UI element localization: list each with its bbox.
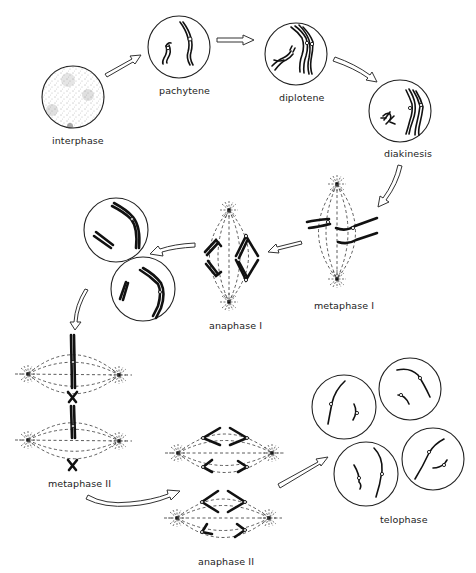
metaphase-1-spindle — [307, 175, 377, 288]
pachytene-cell — [148, 16, 210, 78]
diakinesis-cell — [369, 80, 431, 142]
label-telophase: telophase — [380, 514, 428, 525]
metaphase-2-spindle-upper — [15, 335, 132, 402]
arrow-icon — [150, 243, 195, 256]
telophase-cell-2 — [379, 358, 441, 420]
arrow-icon — [217, 35, 254, 45]
anaphase-2-spindle-upper — [165, 428, 285, 473]
diplotene-cell — [265, 23, 327, 85]
telophase-cell-4 — [402, 428, 464, 490]
arrow-icon — [70, 289, 88, 330]
arrow-icon — [268, 241, 302, 253]
arrow-icon — [105, 55, 141, 77]
telophase-cell-1 — [312, 375, 376, 439]
arrow-icon — [278, 457, 328, 488]
label-pachytene: pachytene — [159, 85, 210, 96]
daughter-cell-upper — [84, 198, 148, 262]
anaphase-1-spindle — [205, 201, 258, 311]
arrow-icon — [378, 165, 402, 207]
label-interphase: interphase — [52, 135, 104, 146]
label-metaphase-1: metaphase I — [314, 300, 374, 311]
label-anaphase-2: anaphase II — [198, 556, 254, 567]
interphase-cell — [42, 66, 104, 129]
anaphase-2-spindle-lower — [164, 491, 282, 538]
metaphase-2-spindle-lower — [15, 406, 132, 470]
label-diakinesis: diakinesis — [384, 148, 432, 159]
label-anaphase-1: anaphase I — [209, 320, 262, 331]
arrow-icon — [333, 57, 377, 82]
arrow-icon — [86, 490, 180, 506]
daughter-cell-lower — [111, 257, 175, 321]
label-diplotene: diplotene — [279, 92, 325, 103]
label-metaphase-2: metaphase II — [48, 478, 111, 489]
telophase-cell-3 — [334, 442, 398, 506]
